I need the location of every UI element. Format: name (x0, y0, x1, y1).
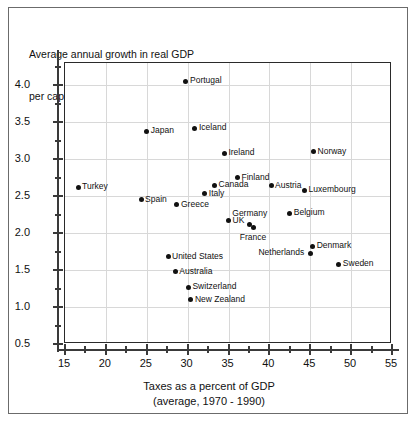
scatter-point-label: Japan (151, 126, 174, 135)
scatter-point (302, 188, 307, 193)
scatter-point (188, 297, 193, 302)
x-tick-major (228, 344, 230, 355)
scatter-point (174, 202, 179, 207)
x-tick-major (146, 344, 148, 355)
scatter-point-label: Belgium (294, 208, 325, 217)
y-tick-major (53, 306, 63, 308)
x-tick-major (391, 344, 393, 355)
scatter-point-label: Portugal (190, 76, 222, 85)
x-tick-label: 35 (221, 358, 233, 369)
scatter-point-label: Iceland (199, 123, 226, 132)
grid-line-vertical (310, 63, 311, 342)
x-tick-label: 15 (58, 358, 70, 369)
y-tick-minor (55, 140, 61, 142)
scatter-point (311, 149, 316, 154)
scatter-point (166, 254, 171, 259)
y-tick-major (53, 269, 63, 271)
x-tick-major (64, 344, 66, 355)
scatter-point (144, 129, 149, 134)
x-tick-minor (207, 346, 209, 353)
y-tick-major (53, 158, 63, 160)
scatter-point (186, 285, 191, 290)
y-tick-major (53, 121, 63, 123)
x-tick-label: 30 (181, 358, 193, 369)
x-tick-minor (84, 346, 86, 353)
y-tick-major (53, 343, 63, 345)
scatter-point-label: Germany (232, 209, 267, 218)
chart-title-line-1: Average annual growth in real GDP (29, 47, 194, 61)
x-tick-major (105, 344, 107, 355)
grid-line-horizontal (65, 196, 390, 197)
y-tick-major (53, 84, 63, 86)
grid-line-horizontal (65, 85, 390, 86)
scatter-point-label: Sweden (343, 259, 374, 268)
scatter-point-label: Greece (181, 200, 209, 209)
scatter-point (308, 251, 313, 256)
scatter-point-label: Norway (318, 147, 347, 156)
y-tick-label: 1.0 (15, 301, 30, 312)
grid-line-horizontal (65, 233, 390, 234)
grid-line-horizontal (65, 270, 390, 271)
grid-line-vertical (269, 63, 270, 342)
scatter-point-label: United States (172, 252, 223, 261)
y-tick-minor (55, 325, 61, 327)
grid-line-horizontal (65, 159, 390, 160)
scatter-point (269, 183, 274, 188)
x-tick-minor (125, 346, 127, 353)
scatter-point (212, 183, 217, 188)
scatter-point (336, 262, 341, 267)
x-tick-minor (330, 346, 332, 353)
x-tick-major (187, 344, 189, 355)
y-tick-label: 2.0 (15, 227, 30, 238)
scatter-point-label: Austria (275, 181, 301, 190)
x-tick-label: 25 (140, 358, 152, 369)
x-tick-major (350, 344, 352, 355)
y-tick-label: 0.5 (15, 338, 30, 349)
plot-area: PortugalJapanIcelandIrelandNorwayFinland… (64, 62, 391, 343)
y-tick-minor (55, 251, 61, 253)
x-tick-major (309, 344, 311, 355)
scatter-point-label: Italy (209, 189, 225, 198)
grid-line-vertical (351, 63, 352, 342)
x-axis-title-line-1: Taxes as a percent of GDP (9, 379, 409, 394)
x-axis-title: Taxes as a percent of GDP (average, 1970… (9, 379, 409, 409)
scatter-point-label: New Zealand (195, 295, 245, 304)
y-tick-minor (55, 103, 61, 105)
y-tick-minor (55, 214, 61, 216)
x-tick-label: 50 (344, 358, 356, 369)
scatter-point-label: Denmark (317, 241, 351, 250)
x-tick-label: 40 (262, 358, 274, 369)
scatter-point (139, 197, 144, 202)
scatter-point-label: Australia (179, 267, 212, 276)
scatter-point-label: Netherlands (258, 248, 304, 257)
y-tick-label: 3.0 (15, 153, 30, 164)
scatter-point-label: Turkey (82, 182, 108, 191)
scatter-point (173, 269, 178, 274)
scatter-point (251, 225, 256, 230)
y-tick-minor (55, 177, 61, 179)
y-tick-label: 3.5 (15, 116, 30, 127)
grid-line-horizontal (65, 122, 390, 123)
scatter-point-label: Switzerland (192, 282, 236, 291)
x-tick-label: 20 (99, 358, 111, 369)
y-tick-label: 2.5 (15, 190, 30, 201)
scatter-point (192, 126, 197, 131)
x-tick-label: 45 (303, 358, 315, 369)
chart-figure: Average annual growth in real GDP per ca… (8, 7, 408, 414)
scatter-point-label: Ireland (228, 148, 254, 157)
x-tick-major (268, 344, 270, 355)
x-tick-label: 55 (385, 358, 397, 369)
x-tick-minor (371, 346, 373, 353)
scatter-point-label: Luxembourg (309, 185, 356, 194)
grid-line-horizontal (65, 307, 390, 308)
scatter-point (310, 244, 315, 249)
scatter-point (226, 218, 231, 223)
scatter-point-label: France (240, 233, 266, 242)
scatter-point-label: Spain (145, 195, 167, 204)
y-tick-major (53, 232, 63, 234)
grid-line-vertical (106, 63, 107, 342)
x-axis-title-line-2: (average, 1970 - 1990) (9, 394, 409, 409)
y-tick-label: 4.0 (15, 79, 30, 90)
x-tick-minor (166, 346, 168, 353)
y-tick-label: 1.5 (15, 264, 30, 275)
